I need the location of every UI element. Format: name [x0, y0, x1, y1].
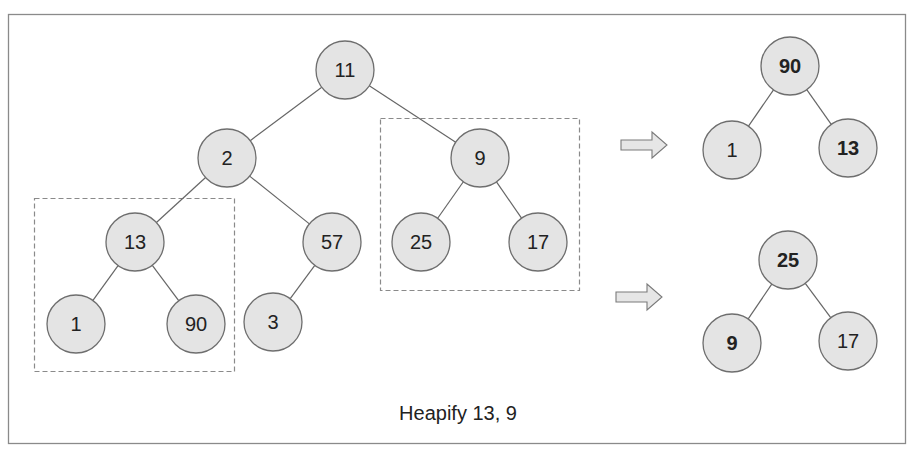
node-label: 57 [321, 231, 343, 253]
node-label: 25 [777, 249, 799, 271]
main-node-13: 13 [106, 213, 164, 271]
main-node-17: 17 [509, 213, 567, 271]
main-node-2: 2 [198, 129, 256, 187]
main-node-57: 57 [303, 213, 361, 271]
node-label: 17 [527, 231, 549, 253]
heapify-diagram: 11291357251719039011325917 Heapify 13, 9 [0, 0, 913, 451]
node-label: 13 [124, 231, 146, 253]
heapified-13-node-90: 90 [761, 37, 819, 95]
node-label: 1 [70, 313, 81, 335]
node-label: 13 [837, 137, 859, 159]
node-label: 9 [474, 147, 485, 169]
heapified-9-node-25: 25 [759, 231, 817, 289]
node-label: 17 [837, 330, 859, 352]
main-node-25: 25 [392, 213, 450, 271]
main-node-1: 1 [47, 295, 105, 353]
node-label: 11 [335, 59, 356, 81]
heapified-9-node-17: 17 [819, 312, 877, 370]
node-label: 2 [221, 147, 232, 169]
node-label: 1 [726, 139, 737, 161]
node-label: 90 [185, 313, 207, 335]
node-label: 25 [410, 231, 432, 253]
heapified-13-node-1: 1 [703, 121, 761, 179]
node-label: 9 [726, 332, 737, 354]
main-node-9: 9 [451, 129, 509, 187]
node-label: 90 [779, 55, 801, 77]
main-node-90: 90 [167, 295, 225, 353]
heapified-9-node-9: 9 [703, 314, 761, 372]
main-node-3: 3 [244, 293, 302, 351]
diagram-caption: Heapify 13, 9 [399, 402, 517, 424]
node-label: 3 [267, 311, 278, 333]
heapified-13-node-13: 13 [819, 119, 877, 177]
main-node-11: 11 [316, 41, 374, 99]
